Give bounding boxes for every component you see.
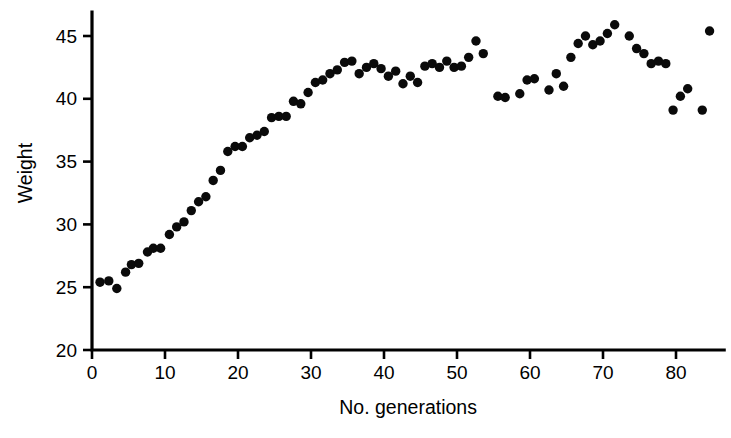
data-point bbox=[179, 217, 188, 226]
data-point bbox=[552, 69, 561, 78]
data-point bbox=[156, 244, 165, 253]
data-point bbox=[406, 71, 415, 80]
data-point bbox=[639, 49, 648, 58]
x-tick-label-20: 20 bbox=[227, 362, 248, 383]
data-point bbox=[515, 89, 524, 98]
data-point bbox=[95, 277, 104, 286]
data-point bbox=[104, 276, 113, 285]
x-axis-title: No. generations bbox=[339, 396, 477, 418]
data-point bbox=[391, 66, 400, 75]
x-tick-label-30: 30 bbox=[300, 362, 321, 383]
axes-group bbox=[92, 12, 724, 350]
y-tick-label-25: 25 bbox=[56, 277, 77, 298]
y-tick-label-30: 30 bbox=[56, 214, 77, 235]
tick-labels-group: 20253035404501020304050607080 bbox=[56, 26, 687, 383]
data-point bbox=[112, 284, 121, 293]
data-point bbox=[398, 79, 407, 88]
data-point bbox=[413, 78, 422, 87]
data-point bbox=[610, 20, 619, 29]
data-point bbox=[457, 61, 466, 70]
data-point bbox=[581, 31, 590, 40]
data-point bbox=[208, 176, 217, 185]
x-tick-label-10: 10 bbox=[154, 362, 175, 383]
x-tick-label-40: 40 bbox=[373, 362, 394, 383]
y-tick-label-35: 35 bbox=[56, 151, 77, 172]
data-point bbox=[216, 166, 225, 175]
data-point bbox=[201, 192, 210, 201]
data-point bbox=[165, 230, 174, 239]
data-point bbox=[661, 59, 670, 68]
axis-spines bbox=[92, 12, 724, 350]
data-point bbox=[676, 92, 685, 101]
data-point bbox=[347, 56, 356, 65]
y-axis-title: Weight bbox=[14, 142, 36, 203]
data-point bbox=[464, 53, 473, 62]
data-point bbox=[705, 26, 714, 35]
data-point bbox=[625, 31, 634, 40]
data-point bbox=[500, 93, 509, 102]
data-point bbox=[603, 29, 612, 38]
x-tick-label-60: 60 bbox=[519, 362, 540, 383]
data-point bbox=[281, 112, 290, 121]
data-point bbox=[187, 206, 196, 215]
plot-canvas: 20253035404501020304050607080 Weight No.… bbox=[0, 0, 731, 438]
data-points-group bbox=[95, 20, 714, 293]
data-point bbox=[479, 49, 488, 58]
ticks-group bbox=[83, 36, 676, 359]
data-point bbox=[333, 65, 342, 74]
y-tick-label-40: 40 bbox=[56, 88, 77, 109]
data-point bbox=[435, 63, 444, 72]
x-tick-label-50: 50 bbox=[446, 362, 467, 383]
data-point bbox=[566, 53, 575, 62]
x-tick-label-70: 70 bbox=[592, 362, 613, 383]
y-tick-label-45: 45 bbox=[56, 26, 77, 47]
x-tick-label-0: 0 bbox=[87, 362, 98, 383]
data-point bbox=[318, 75, 327, 84]
data-point bbox=[238, 142, 247, 151]
data-point bbox=[260, 127, 269, 136]
data-point bbox=[668, 105, 677, 114]
scatter-plot-figure: 20253035404501020304050607080 Weight No.… bbox=[0, 0, 731, 438]
data-point bbox=[471, 36, 480, 45]
y-tick-label-20: 20 bbox=[56, 340, 77, 361]
data-point bbox=[698, 105, 707, 114]
x-tick-label-80: 80 bbox=[665, 362, 686, 383]
data-point bbox=[573, 39, 582, 48]
data-point bbox=[296, 99, 305, 108]
data-point bbox=[683, 84, 692, 93]
data-point bbox=[134, 259, 143, 268]
data-point bbox=[544, 85, 553, 94]
data-point bbox=[442, 56, 451, 65]
data-point bbox=[595, 36, 604, 45]
data-point bbox=[376, 64, 385, 73]
data-point bbox=[530, 74, 539, 83]
data-point bbox=[559, 82, 568, 91]
data-point bbox=[354, 69, 363, 78]
data-point bbox=[303, 88, 312, 97]
data-point bbox=[121, 267, 130, 276]
